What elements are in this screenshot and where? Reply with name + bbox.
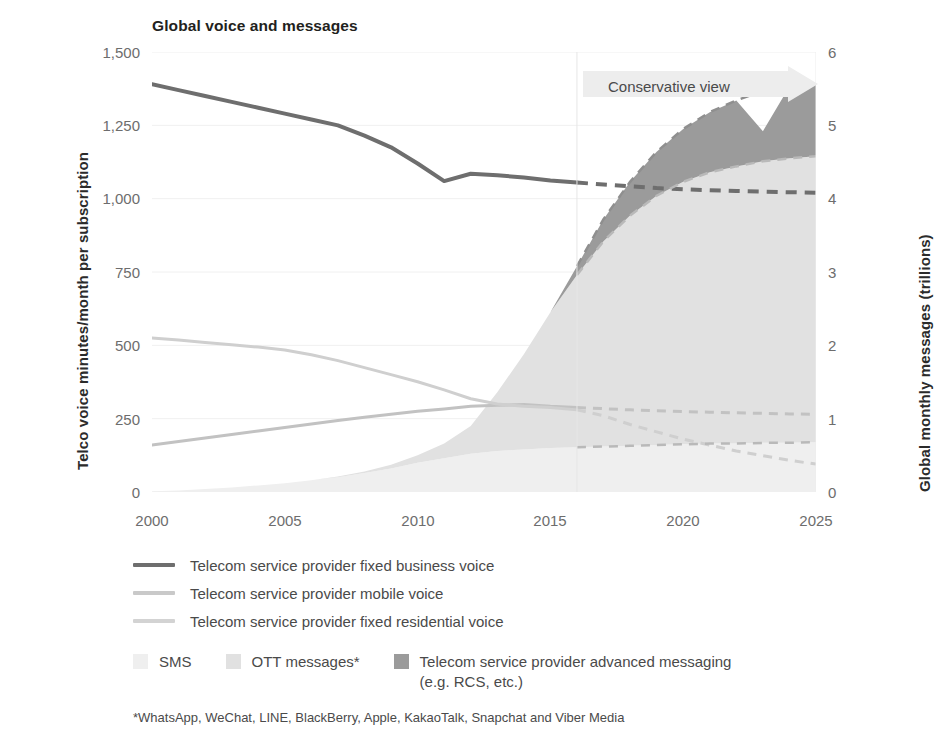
- legend-swatch-line-icon: [133, 563, 175, 567]
- legend-swatch-box-icon: [394, 654, 409, 669]
- x-tick-2010: 2010: [373, 512, 463, 529]
- legend-swatch-box-icon: [226, 654, 241, 669]
- legend-item-mobile-voice[interactable]: Telecom service provider mobile voice: [133, 579, 833, 607]
- y-tick-right-4: 4: [828, 190, 868, 207]
- legend-item-fixed-business-voice[interactable]: Telecom service provider fixed business …: [133, 551, 833, 579]
- legend-item-ott-messages[interactable]: OTT messages*: [226, 652, 360, 672]
- y-tick-right-1: 1: [828, 411, 868, 428]
- legend-label-group: Telecom service provider advanced messag…: [420, 652, 732, 692]
- legend-label: Telecom service provider advanced messag…: [420, 653, 732, 670]
- legend-label: Telecom service provider mobile voice: [190, 585, 443, 602]
- x-tick-2025: 2025: [771, 512, 861, 529]
- legend-item-fixed-residential-voice[interactable]: Telecom service provider fixed residenti…: [133, 607, 833, 635]
- y-tick-left-500: 500: [0, 337, 140, 354]
- y-tick-left-750: 750: [0, 264, 140, 281]
- legend-lines: Telecom service provider fixed business …: [133, 551, 833, 635]
- chart-title: Global voice and messages: [152, 17, 358, 35]
- chart-plot-area: [152, 52, 816, 492]
- legend-item-sms[interactable]: SMS: [133, 652, 192, 672]
- legend-item-advanced-messaging[interactable]: Telecom service provider advanced messag…: [394, 652, 732, 692]
- y-tick-left-1500: 1,500: [0, 44, 140, 61]
- footnote: *WhatsApp, WeChat, LINE, BlackBerry, App…: [133, 710, 624, 725]
- legend-label: Telecom service provider fixed business …: [190, 557, 494, 574]
- conservative-view-label: Conservative view: [608, 78, 730, 95]
- y-tick-left-0: 0: [0, 484, 140, 501]
- y-tick-right-2: 2: [828, 337, 868, 354]
- y-tick-right-0: 0: [828, 484, 868, 501]
- x-tick-2015: 2015: [505, 512, 595, 529]
- legend-label: Telecom service provider fixed residenti…: [190, 613, 503, 630]
- line-telecom-service-provider-fixed-business-voice-solid: [152, 84, 577, 182]
- legend-label: SMS: [159, 652, 192, 672]
- legend-areas: SMS OTT messages* Telecom service provid…: [133, 652, 833, 692]
- y-tick-right-6: 6: [828, 44, 868, 61]
- y-tick-right-5: 5: [828, 117, 868, 134]
- y-tick-left-250: 250: [0, 411, 140, 428]
- legend-label: OTT messages*: [252, 652, 360, 672]
- x-tick-2005: 2005: [240, 512, 330, 529]
- area-ott-messages: [152, 156, 816, 491]
- x-tick-2020: 2020: [638, 512, 728, 529]
- right-axis-title: Global monthly messages (trillions): [916, 234, 933, 492]
- x-tick-2000: 2000: [107, 512, 197, 529]
- y-tick-right-3: 3: [828, 264, 868, 281]
- legend-swatch-line-icon: [133, 591, 175, 595]
- legend-swatch-box-icon: [133, 654, 148, 669]
- legend-label-sub: (e.g. RCS, etc.): [420, 673, 523, 690]
- y-tick-left-1250: 1,250: [0, 117, 140, 134]
- y-tick-left-1000: 1,000: [0, 190, 140, 207]
- legend-swatch-line-icon: [133, 619, 175, 623]
- chart-svg: [152, 52, 816, 492]
